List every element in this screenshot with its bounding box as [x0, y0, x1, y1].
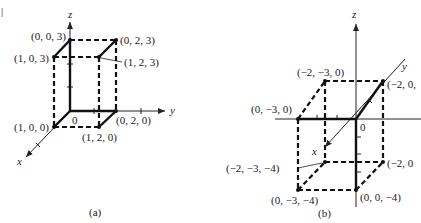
vertex-label: (0, −3, −4)	[271, 194, 319, 207]
z-axis-label-b: z	[351, 8, 357, 20]
vertex-label: (1, 2, 0)	[82, 131, 117, 144]
vertex-label: (1, 0, 3)	[14, 52, 49, 65]
vertex-label: (0, 2, 0)	[116, 114, 151, 127]
origin-label-a: 0	[72, 114, 78, 126]
x-axis-label-b: x	[311, 145, 317, 157]
z-axis-label-a: z	[67, 8, 73, 20]
x-axis-label-a: x	[16, 155, 22, 167]
vertex-label: (1, 0, 0)	[14, 121, 49, 134]
origin-label-b: 0	[360, 121, 366, 133]
vertex-label: (−2, −3, 0)	[297, 66, 345, 79]
vertex-label: (−2, 0	[387, 157, 414, 170]
y-axis-label-a: y	[169, 104, 175, 116]
vertex-label: (1, 2, 3)	[124, 56, 159, 69]
vertex-label: (−2, 0,	[387, 78, 416, 91]
panel-a: z y x 0 (0, 0, 3) (0, 2, 3) (1, 0, 3) (1…	[14, 8, 175, 219]
vertex-label: (0, 2, 3)	[120, 34, 155, 47]
figure-canvas: | z y	[0, 0, 421, 223]
y-axis-label-b: y	[401, 60, 407, 72]
panel-b: z y x 0 (−2, −3, 0) (−2, 0, (0, −3, 0) (…	[226, 8, 421, 220]
margin-mark: |	[1, 5, 3, 17]
vertex-label: (0, −3, 0)	[251, 103, 292, 116]
vertex-label: (−2, −3, −4)	[226, 162, 280, 175]
vertex-label: (0, 0, 3)	[31, 30, 66, 43]
caption-b: (b)	[318, 207, 331, 220]
caption-a: (a)	[89, 206, 102, 219]
vertex-label: (0, 0, −4)	[360, 191, 401, 204]
